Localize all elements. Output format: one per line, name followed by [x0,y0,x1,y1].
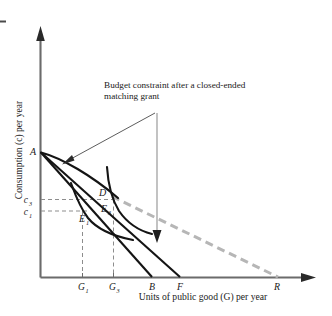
label-G1-subscript: 1 [86,287,89,294]
label-point-E3-subscript: 3 [107,209,111,216]
label-G3: G 3 [109,282,120,294]
label-G1: G 1 [78,282,89,294]
label-point-E3: E 3 [100,203,111,216]
annotation-line-1: Budget constraint after a closed-ended [104,80,246,90]
label-G3-base: G [109,282,116,292]
label-point-E1-subscript: 1 [86,219,89,226]
x-axis-arrowhead [301,273,316,282]
x-axis-label: Units of public good (G) per year [139,291,268,303]
label-c3: c 3 [24,195,32,207]
y-axis-label: Consumption (c) per year [13,100,25,199]
label-point-D: D [98,187,107,198]
annotation-arrows-group [62,113,162,243]
budget-line-AR-dashed [112,197,278,278]
figure-svg: Consumption (c) per year Units of public… [0,0,332,316]
label-point-E1: E 1 [78,213,89,226]
annotation-arrow-diagonal-shaft [69,113,155,160]
label-c1: c 1 [24,207,32,219]
annotation-arrow-vertical-head [153,230,162,243]
label-G1-base: G [78,282,85,292]
label-c1-subscript: 1 [29,212,32,219]
budget-line-open-ended-group [112,197,278,278]
budget-line-AB [41,153,152,278]
axes-group [36,26,316,282]
label-point-R: R [273,281,280,292]
label-G3-subscript: 3 [116,287,120,294]
economics-budget-constraint-figure: Consumption (c) per year Units of public… [0,0,332,316]
label-point-E1-base: E [78,213,85,224]
y-axis-arrowhead [36,26,45,41]
label-point-B: B [149,281,155,292]
label-c3-subscript: 3 [28,200,32,207]
label-point-E3-base: E [100,203,107,214]
label-point-A: A [29,146,37,157]
indifference-curves-group [71,167,152,240]
annotation-line-2: matching grant [104,91,160,101]
budget-line-A-to-kink [41,153,118,199]
label-point-F: F [176,281,184,292]
